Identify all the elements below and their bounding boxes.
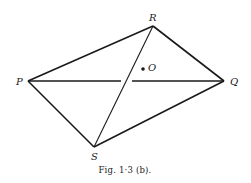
- edge-SP: [28, 81, 94, 147]
- edge-PR: [28, 26, 153, 81]
- label-S: S: [91, 151, 98, 162]
- point-O-dot: [141, 67, 145, 71]
- diagonal-RS: [94, 26, 153, 147]
- quadrilateral-diagram: R P Q S O Fig. 1·3 (b).: [0, 0, 251, 183]
- label-O: O: [148, 62, 156, 73]
- edge-QS: [94, 81, 224, 147]
- edge-RQ: [153, 26, 224, 81]
- label-Q: Q: [230, 76, 238, 87]
- label-R: R: [148, 12, 157, 23]
- figure-caption: Fig. 1·3 (b).: [98, 165, 151, 175]
- label-P: P: [15, 76, 23, 87]
